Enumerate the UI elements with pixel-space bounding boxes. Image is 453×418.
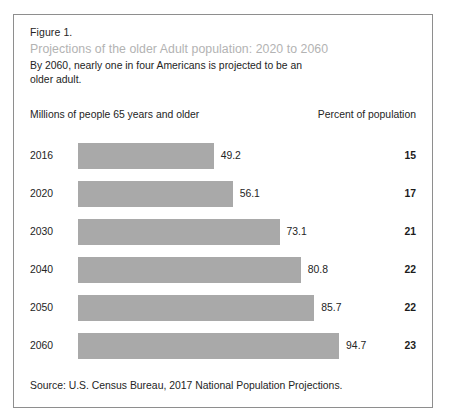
bar-value-label: 56.1 (240, 181, 260, 207)
percent-of-population-value: 15 (404, 143, 416, 169)
bar-row: 203073.121 (14, 219, 432, 245)
page-artifact-text (14, 398, 426, 406)
percent-of-population-value: 23 (404, 333, 416, 359)
percent-of-population-value: 17 (404, 181, 416, 207)
bar-chart-plot: 201649.215202056.117203073.121204080.822… (14, 15, 432, 407)
bar-row: 206094.723 (14, 333, 432, 359)
bar (78, 333, 339, 359)
bar-row: 204080.822 (14, 257, 432, 283)
bar-row-year-label: 2016 (30, 143, 53, 169)
bar-row-year-label: 2020 (30, 181, 53, 207)
bar-row: 201649.215 (14, 143, 432, 169)
bar-value-label: 85.7 (321, 295, 341, 321)
bar-value-label: 94.7 (346, 333, 366, 359)
bar (78, 257, 301, 283)
percent-of-population-value: 21 (404, 219, 416, 245)
percent-of-population-value: 22 (404, 257, 416, 283)
bar-value-label: 73.1 (287, 219, 307, 245)
bar (78, 295, 314, 321)
bar (78, 219, 280, 245)
figure-panel: Figure 1. Projections of the older Adult… (13, 14, 433, 408)
bar-value-label: 80.8 (308, 257, 328, 283)
bar-value-label: 49.2 (221, 143, 241, 169)
bar (78, 181, 233, 207)
bar-row: 202056.117 (14, 181, 432, 207)
bar (78, 143, 214, 169)
bar-row-year-label: 2040 (30, 257, 53, 283)
bar-row-year-label: 2060 (30, 333, 53, 359)
source-note: Source: U.S. Census Bureau, 2017 Nationa… (30, 379, 342, 393)
bar-row-year-label: 2050 (30, 295, 53, 321)
bar-row: 205085.722 (14, 295, 432, 321)
percent-of-population-value: 22 (404, 295, 416, 321)
bar-row-year-label: 2030 (30, 219, 53, 245)
